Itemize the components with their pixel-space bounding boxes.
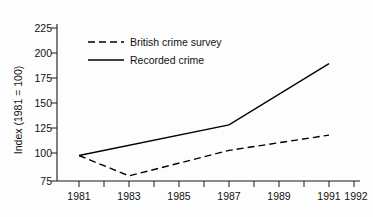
x-tick-label: 1992 (344, 190, 368, 202)
x-tick-label: 1987 (217, 190, 241, 202)
y-axis-title: Index (1981 = 100) (12, 66, 24, 154)
line-chart-figure: Index (1981 = 100) 225 200 175 150 125 1… (0, 0, 373, 217)
y-tick-label: 100 (34, 147, 52, 159)
chart-canvas: Index (1981 = 100) 225 200 175 150 125 1… (0, 0, 373, 217)
series-line-british-crime-survey (79, 135, 329, 176)
x-tick-label: 1989 (267, 190, 291, 202)
x-tick-label: 1985 (167, 190, 191, 202)
legend-label-recorded-crime: Recorded crime (130, 54, 204, 66)
x-tick-label: 1991 (317, 190, 341, 202)
series-line-recorded-crime (79, 64, 329, 156)
x-tick-label: 1983 (117, 190, 141, 202)
y-tick-label: 125 (34, 122, 52, 134)
chart-legend: British crime survey Recorded crime (88, 36, 222, 66)
y-tick-label: 175 (34, 72, 52, 84)
y-tick-label: 150 (34, 97, 52, 109)
y-tick-label: 225 (34, 22, 52, 34)
y-tick-label: 75 (40, 175, 52, 187)
x-tick-marks (79, 181, 354, 187)
legend-label-british-crime-survey: British crime survey (130, 36, 222, 48)
y-tick-label: 200 (34, 47, 52, 59)
x-tick-label: 1981 (67, 190, 91, 202)
